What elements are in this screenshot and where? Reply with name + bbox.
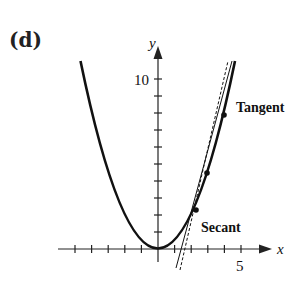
secant-point: [204, 170, 210, 176]
tangent-label: Tangent: [236, 100, 285, 115]
chart-plot: y x 10 5 Tangent Secant: [0, 0, 303, 302]
x-axis-label: x: [276, 241, 284, 257]
y-axis-label: y: [147, 35, 156, 51]
y-tick-label-10: 10: [134, 72, 149, 88]
secant-point: [193, 207, 199, 213]
secant-point: [221, 112, 227, 118]
x-tick-label-5: 5: [236, 258, 244, 274]
y-axis: [154, 46, 163, 262]
tangent-line: [176, 61, 232, 268]
secant-line: [180, 61, 228, 270]
secant-label: Secant: [201, 220, 241, 235]
